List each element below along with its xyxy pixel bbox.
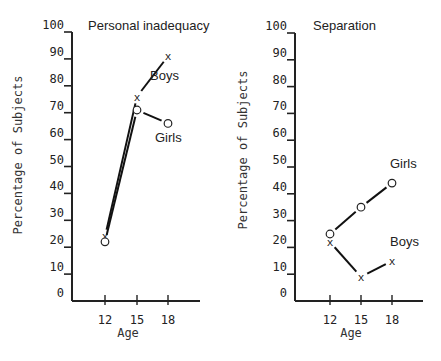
x-axis-title: Age (117, 326, 139, 340)
circle-marker-icon (101, 238, 109, 246)
y-tick-label: 90 (273, 46, 287, 60)
series-line-girls (367, 187, 387, 203)
series-label-girls: Girls (390, 156, 417, 171)
series-label-boys: Boys (390, 234, 419, 249)
y-tick-label: 90 (50, 45, 64, 59)
y-tick-label: 100 (265, 19, 287, 33)
series-label-boys: Boys (150, 68, 179, 83)
y-tick-label: 80 (50, 72, 64, 86)
y-tick-label: 10 (273, 260, 287, 274)
series-label-girls: Girls (155, 130, 182, 145)
x-tick-label: 18 (161, 313, 175, 327)
y-axis-title: Percentage of Subjects (11, 76, 25, 235)
panel-personal-inadequacy: 0102030405060708090100121518AgePercentag… (11, 18, 210, 340)
x-marker-icon: x (134, 91, 141, 104)
y-tick-label: 30 (273, 207, 287, 221)
y-tick-label: 60 (50, 126, 64, 140)
chart-figure: 0102030405060708090100121518AgePercentag… (0, 0, 441, 361)
x-tick-label: 15 (354, 313, 368, 327)
panel-title: Separation (313, 18, 376, 33)
y-tick-label: 70 (50, 99, 64, 113)
y-tick-label: 80 (273, 73, 287, 87)
y-tick-label: 0 (57, 286, 64, 300)
y-tick-label: 40 (273, 180, 287, 194)
series-line-girls (107, 117, 136, 235)
y-tick-label: 60 (273, 126, 287, 140)
series-line-boys (367, 264, 386, 274)
circle-marker-icon (388, 179, 396, 187)
y-tick-label: 20 (50, 233, 64, 247)
y-tick-label: 20 (273, 233, 287, 247)
series-line-boys (335, 247, 357, 271)
x-tick-label: 12 (323, 313, 337, 327)
x-marker-icon: x (389, 255, 396, 268)
x-marker-icon: x (165, 50, 172, 63)
y-tick-label: 10 (50, 260, 64, 274)
x-marker-icon: x (327, 236, 334, 249)
y-tick-label: 40 (50, 179, 64, 193)
circle-marker-icon (164, 120, 172, 128)
panel-title: Personal inadequacy (88, 18, 210, 33)
y-tick-label: 50 (273, 153, 287, 167)
circle-marker-icon (357, 203, 365, 211)
x-tick-label: 15 (130, 313, 144, 327)
series-line-girls (335, 212, 355, 230)
y-axis-title: Percentage of Subjects (236, 71, 250, 230)
series-line-girls (143, 113, 161, 121)
series-line-boys (107, 103, 136, 229)
x-tick-label: 18 (385, 313, 399, 327)
circle-marker-icon (133, 106, 141, 114)
x-marker-icon: x (358, 271, 365, 284)
y-tick-label: 0 (280, 286, 287, 300)
y-tick-label: 30 (50, 206, 64, 220)
y-tick-label: 70 (273, 99, 287, 113)
y-tick-label: 50 (50, 153, 64, 167)
panel-separation: 0102030405060708090100121518AgePercentag… (236, 18, 423, 340)
y-tick-label: 100 (42, 18, 64, 32)
x-axis-title: Age (340, 326, 362, 340)
x-tick-label: 12 (98, 313, 112, 327)
